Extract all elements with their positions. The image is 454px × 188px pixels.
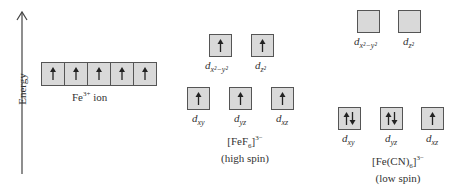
orbital-box-ls-dxy [338, 107, 361, 130]
spin-up-arrow-icon [422, 108, 443, 129]
orbital-box [42, 63, 65, 85]
spin-up-arrow-icon [42, 63, 64, 85]
ion-symbol: Fe [72, 91, 83, 103]
orbital-box-ls-dyz [380, 107, 403, 130]
energy-axis-label: Energy [16, 69, 28, 109]
orbital-subscript: z² [261, 65, 267, 74]
orbital-label-hs-dxz: dxz [276, 112, 288, 127]
orbital-label-ls-dyz: dyz [385, 132, 397, 147]
spin-up-arrow-icon [252, 35, 273, 56]
formula-main: [Fe(CN) [372, 155, 409, 167]
orbital-subscript: yz [240, 118, 247, 127]
spin-up-arrow-icon [88, 63, 110, 85]
orbital-box-hs-dxz [271, 87, 294, 110]
orbital-box [65, 63, 88, 85]
complex-formula: [Fe(CN)6]3− [358, 152, 438, 172]
orbital-label-ls-dx2y2: dx²−y² [354, 35, 377, 50]
spin-state-label: (high spin) [213, 152, 277, 164]
spin-up-arrow-icon [65, 63, 87, 85]
orbital-label-hs-dyz: dyz [234, 112, 246, 127]
low-spin-caption: [Fe(CN)6]3− (low spin) [358, 152, 438, 184]
orbital-label-ls-dxz: dxz [426, 132, 438, 147]
spin-pair-arrows-icon [339, 108, 360, 129]
complex-formula: [FeF6]3− [213, 132, 277, 152]
spin-pair-arrows-icon [381, 108, 402, 129]
free-ion-label: Fe3+ ion [72, 88, 107, 103]
orbital-label-hs-dz2: dz² [255, 59, 266, 74]
spin-up-arrow-icon [111, 63, 133, 85]
orbital-box-ls-dz2 [398, 10, 421, 33]
free-ion-orbitals [41, 62, 157, 86]
orbital-subscript: x²−y² [360, 41, 377, 50]
orbital-label-ls-dxy: dxy [342, 132, 355, 147]
orbital-box [134, 63, 156, 85]
spin-up-arrow-icon [210, 35, 231, 56]
orbital-subscript: xy [198, 118, 205, 127]
spin-up-arrow-icon [230, 88, 251, 109]
orbital-subscript: xz [432, 138, 439, 147]
orbital-box-ls-dxz [421, 107, 444, 130]
orbital-subscript: x²−y² [211, 65, 228, 74]
orbital-box-hs-dz2 [251, 34, 274, 57]
orbital-label-ls-dz2: dz² [403, 35, 414, 50]
orbital-box-ls-dx2y2 [357, 10, 380, 33]
orbital-subscript: z² [409, 41, 415, 50]
orbital-box-hs-dyz [229, 87, 252, 110]
spin-up-arrow-icon [188, 88, 209, 109]
formula-main: [FeF [227, 135, 248, 147]
orbital-subscript: xy [348, 138, 355, 147]
orbital-subscript: yz [391, 138, 398, 147]
formula-charge: 3− [255, 134, 262, 142]
formula-charge: 3− [417, 154, 424, 162]
orbital-box [88, 63, 111, 85]
orbital-box-hs-dx2y2 [209, 34, 232, 57]
orbital-subscript: xz [282, 118, 289, 127]
spin-state-label: (low spin) [358, 172, 438, 184]
ion-word: ion [90, 91, 107, 103]
orbital-box-hs-dxy [187, 87, 210, 110]
spin-up-arrow-icon [134, 63, 156, 85]
orbital-label-hs-dxy: dxy [192, 112, 205, 127]
high-spin-caption: [FeF6]3− (high spin) [213, 132, 277, 164]
spin-up-arrow-icon [272, 88, 293, 109]
orbital-box [111, 63, 134, 85]
orbital-label-hs-dx2y2: dx²−y² [205, 59, 228, 74]
